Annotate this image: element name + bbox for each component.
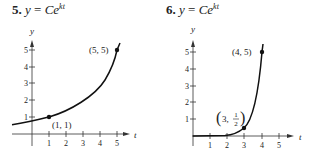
y-axis-arrow-icon (30, 40, 34, 47)
fraction-denominator: 2 (234, 120, 238, 128)
fraction-numerator: 1 (234, 111, 238, 119)
point-label: (5, 5) (89, 45, 109, 55)
y-tick-label: 4 (185, 65, 189, 74)
x-tick-label: 2 (64, 139, 68, 148)
point-label: ( 3, 1 2 ) (216, 109, 245, 128)
x-tick-label: 5 (115, 139, 119, 148)
x-tick-label: 1 (47, 139, 51, 148)
curve-line (12, 43, 120, 125)
x-tick-label: 5 (277, 141, 281, 150)
y-tick-label: 2 (185, 98, 189, 107)
x-axis-label: t (134, 130, 137, 140)
y-tick-label: 3 (185, 82, 189, 91)
point-label-prefix: 3, (222, 114, 229, 124)
x-axis-arrow-icon (287, 134, 294, 138)
y-tick-label: 5 (24, 46, 28, 55)
data-point (47, 115, 51, 119)
svg-text:): ) (240, 109, 245, 127)
x-axis-label: t (299, 132, 302, 142)
y-axis-arrow-icon (191, 40, 195, 47)
x-axis-arrow-icon (123, 132, 130, 136)
x-tick-label: 3 (242, 141, 246, 150)
data-point (260, 50, 264, 54)
y-tick-label: 1 (24, 113, 28, 122)
x-tick-label: 4 (260, 141, 264, 150)
y-axis-label: y (190, 24, 195, 34)
charts-canvas: t y 1 2 3 4 5 1 2 3 4 5 (0, 0, 315, 158)
data-point (242, 126, 246, 130)
y-axis-label: y (29, 26, 34, 36)
y-tick-label: 5 (185, 48, 189, 57)
x-tick-label: 2 (225, 141, 229, 150)
chart-6: t y 1 2 3 4 5 1 2 3 4 5 (185, 24, 302, 150)
y-tick-label: 2 (24, 96, 28, 105)
x-tick-label: 1 (208, 141, 212, 150)
y-tick-label: 3 (24, 79, 28, 88)
data-point (115, 48, 119, 52)
svg-text:(: ( (216, 109, 221, 127)
point-label: (4, 5) (232, 47, 252, 57)
y-tick-label: 4 (24, 63, 28, 72)
x-tick-label: 4 (98, 139, 102, 148)
point-label: (1, 1) (52, 120, 72, 130)
chart-5: t y 1 2 3 4 5 1 2 3 4 5 (12, 26, 137, 148)
y-tick-label: 1 (185, 115, 189, 124)
x-tick-label: 3 (81, 139, 85, 148)
